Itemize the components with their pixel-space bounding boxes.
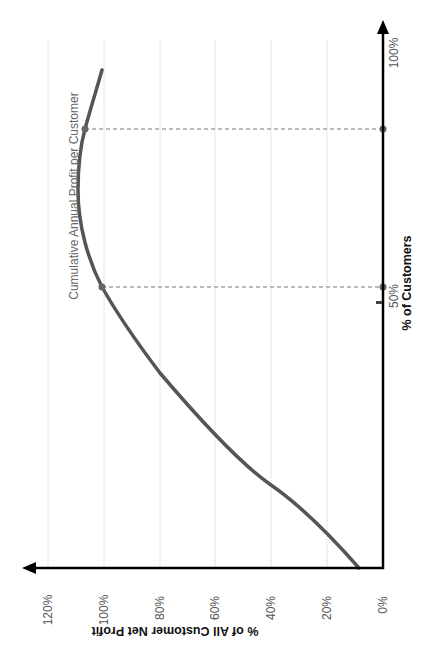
- profit-curve-chart: 120% 100% 80% 60% 40% 20% 0% % of All Cu…: [0, 0, 426, 662]
- x-axis-tick-50: [376, 301, 382, 304]
- y-tick-80: 80%: [153, 596, 167, 620]
- gridlines: [48, 40, 327, 568]
- point-86pct-curve: [82, 126, 89, 133]
- x-axis-title: % of Customers: [400, 235, 414, 330]
- y-axis-title: % of All Customer Net Profit: [91, 624, 259, 638]
- cumulative-profit-curve: [78, 70, 359, 568]
- y-tick-20: 20%: [320, 596, 334, 620]
- y-tick-60: 60%: [208, 596, 222, 620]
- axes: [34, 34, 384, 569]
- point-50pct-curve: [99, 284, 106, 291]
- guide-lines: [85, 129, 383, 287]
- y-tick-120: 120%: [41, 594, 55, 625]
- y-axis-arrow-icon: [22, 562, 36, 574]
- x-tick-100: 100%: [387, 37, 401, 68]
- series-label: Cumulative Annual Profit per Customer: [67, 92, 81, 299]
- y-tick-0: 0%: [376, 596, 390, 614]
- y-tick-100: 100%: [97, 594, 111, 625]
- y-tick-40: 40%: [264, 596, 278, 620]
- x-axis-arrow-icon: [377, 20, 389, 34]
- x-tick-50: 50%: [387, 284, 401, 308]
- y-tick-labels: 120% 100% 80% 60% 40% 20% 0%: [41, 594, 390, 625]
